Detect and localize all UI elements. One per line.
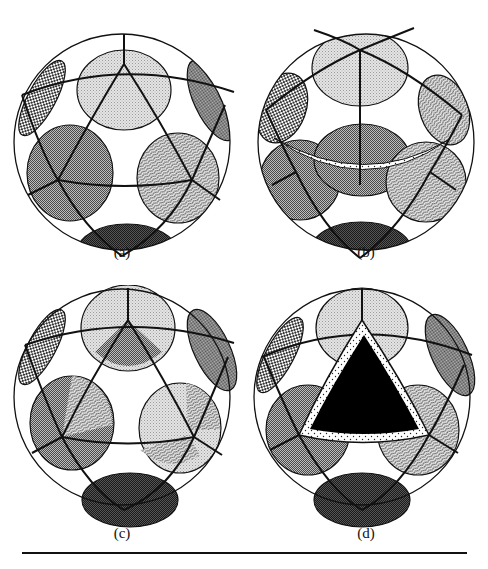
panel-d: (d) (244, 285, 488, 555)
figure-divider (22, 552, 467, 554)
sphere-diagram-b (244, 0, 488, 270)
sphere-diagram-d (244, 285, 488, 555)
panel-c: (c) (0, 285, 244, 555)
panel-label-c: (c) (0, 525, 244, 542)
panel-a: (a) (0, 0, 244, 270)
panel-label-d: (d) (244, 525, 488, 542)
panel-label-a: (a) (0, 244, 244, 261)
panel-label-b: (b) (244, 244, 488, 261)
sphere-diagram-a (0, 0, 244, 270)
panel-b: (b) (244, 0, 488, 270)
sphere-diagram-c (0, 285, 244, 555)
